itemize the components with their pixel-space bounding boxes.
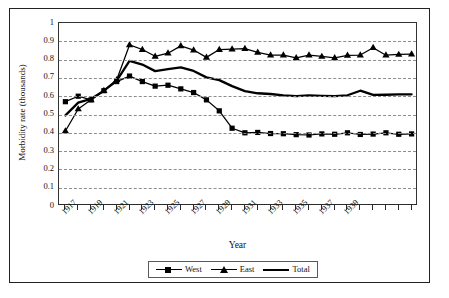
legend-marker-triangle-icon: [211, 265, 237, 274]
data-point-marker: [305, 51, 312, 57]
legend-label-east: East: [240, 265, 255, 274]
y-tick-label: 0.4: [12, 127, 54, 136]
y-tick-label: 0.2: [12, 164, 54, 173]
data-point-marker: [229, 126, 234, 131]
data-point-marker: [191, 90, 196, 95]
legend-item-west[interactable]: West: [156, 265, 202, 274]
gridline: [59, 41, 416, 42]
plot-inner: [59, 23, 416, 205]
gridline: [59, 60, 416, 61]
data-point-marker: [228, 45, 235, 51]
gridline: [59, 133, 416, 134]
chart-figure: Morbidity rate (thousands) 00.10.20.30.4…: [0, 0, 449, 298]
data-point-marker: [241, 45, 248, 51]
x-axis-tick-labels: 1917191919211923192519271929193119331935…: [0, 210, 449, 244]
series-west: [63, 73, 414, 137]
x-axis: [58, 204, 417, 205]
legend-marker-line-icon: [263, 265, 289, 274]
legend-item-total[interactable]: Total: [263, 265, 309, 274]
legend-label-west: West: [185, 265, 202, 274]
gridline: [59, 78, 416, 79]
data-point-marker: [204, 97, 209, 102]
plot-area: [58, 22, 417, 205]
data-point-marker: [165, 83, 170, 88]
chart-legend: West East Total: [148, 261, 318, 278]
legend-label-total: Total: [292, 265, 309, 274]
y-tick-label: 0.1: [12, 182, 54, 191]
data-point-marker: [153, 84, 158, 89]
data-point-marker: [280, 51, 287, 57]
y-tick-label: 0.3: [12, 146, 54, 155]
data-point-marker: [395, 51, 402, 57]
x-axis-title: Year: [58, 240, 417, 250]
data-point-marker: [370, 44, 377, 50]
gridline: [59, 169, 416, 170]
data-point-marker: [140, 79, 145, 84]
data-point-marker: [217, 108, 222, 113]
series-east: [62, 41, 415, 133]
gridline: [59, 115, 416, 116]
data-point-marker: [216, 46, 223, 52]
gridline: [59, 188, 416, 189]
data-point-marker: [344, 52, 351, 58]
data-point-marker: [178, 86, 183, 91]
y-tick-label: 0.9: [12, 36, 54, 45]
data-point-marker: [177, 42, 184, 48]
y-tick-label: 0.6: [12, 91, 54, 100]
series-total: [65, 61, 411, 116]
data-point-marker: [408, 50, 415, 56]
y-tick-label: 0: [12, 201, 54, 210]
y-tick-label: 0.7: [12, 72, 54, 81]
data-point-marker: [63, 99, 68, 104]
gridline: [59, 96, 416, 97]
gridline: [59, 151, 416, 152]
y-tick-label: 0.8: [12, 54, 54, 63]
y-tick-label: 0.5: [12, 109, 54, 118]
legend-item-east[interactable]: East: [211, 265, 255, 274]
legend-marker-square-icon: [156, 265, 182, 274]
y-tick-label: 1: [12, 18, 54, 27]
y-axis-tick-labels: 00.10.20.30.40.50.60.70.80.91: [8, 0, 54, 298]
